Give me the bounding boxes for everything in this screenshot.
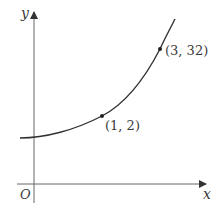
exponential-curve — [20, 19, 175, 138]
origin-label: O — [20, 187, 31, 202]
point-3-32 — [158, 47, 162, 51]
y-axis-label: y — [20, 5, 30, 21]
graph: y x O (1, 2) (3, 32) — [0, 0, 221, 220]
point-2-label: (3, 32) — [165, 43, 208, 58]
point-1-2 — [100, 114, 104, 118]
x-axis-label: x — [203, 186, 211, 202]
point-1-label: (1, 2) — [105, 118, 140, 133]
